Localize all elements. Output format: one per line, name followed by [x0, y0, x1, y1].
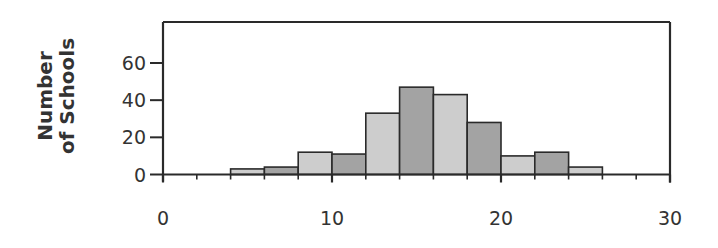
x-tick-label: 20 — [489, 207, 513, 229]
x-tick-label: 30 — [658, 207, 682, 229]
y-axis-ticks: 0204060 — [122, 52, 163, 186]
y-tick-label: 20 — [122, 126, 146, 148]
histogram-bar — [569, 167, 603, 174]
y-axis-label-line: Number — [33, 51, 57, 141]
x-tick-label: 0 — [157, 207, 169, 229]
histogram-bar — [467, 122, 501, 174]
histogram-chart: 0204060 0102030 Numberof Schools — [0, 0, 718, 248]
histogram-bar — [433, 95, 467, 175]
x-tick-label: 10 — [320, 207, 344, 229]
histogram-bar — [400, 87, 434, 174]
y-axis-label-line: of Schools — [55, 38, 79, 154]
histogram-bar — [535, 152, 569, 174]
histogram-bar — [264, 167, 298, 174]
y-tick-label: 0 — [134, 164, 146, 186]
histogram-bar — [298, 152, 332, 174]
histogram-bars — [231, 87, 603, 174]
x-axis-ticks: 0102030 — [157, 175, 682, 230]
y-axis-label: Numberof Schools — [33, 38, 79, 154]
histogram-bar — [366, 113, 400, 174]
histogram-bar — [332, 154, 366, 174]
y-tick-label: 60 — [122, 52, 146, 74]
histogram-bar — [501, 156, 535, 175]
y-axis-label-group: Numberof Schools — [33, 38, 79, 154]
y-tick-label: 40 — [122, 89, 146, 111]
